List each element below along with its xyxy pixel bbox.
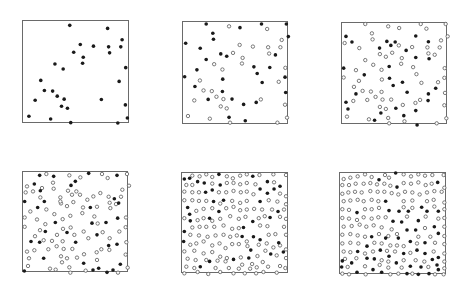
hollow-point xyxy=(278,215,281,218)
hollow-point xyxy=(433,241,436,244)
filled-point xyxy=(379,111,383,115)
hollow-point xyxy=(425,27,428,30)
hollow-point xyxy=(99,191,102,194)
filled-point xyxy=(420,205,424,209)
hollow-point xyxy=(124,225,127,228)
hollow-point xyxy=(198,79,201,82)
hollow-point xyxy=(238,43,241,46)
hollow-point xyxy=(227,266,230,269)
filled-point xyxy=(433,225,437,229)
hollow-point xyxy=(106,176,109,179)
hollow-point xyxy=(443,234,446,237)
hollow-point xyxy=(356,234,359,237)
hollow-point xyxy=(390,191,393,194)
filled-point xyxy=(42,256,46,260)
hollow-point xyxy=(262,270,265,273)
filled-point xyxy=(49,117,53,121)
hollow-point xyxy=(356,175,359,178)
hollow-point xyxy=(444,22,447,25)
hollow-point xyxy=(350,224,353,227)
filled-point xyxy=(43,89,47,93)
filled-point xyxy=(400,220,404,224)
filled-point xyxy=(431,258,435,262)
hollow-point xyxy=(341,208,344,211)
filled-point xyxy=(82,262,86,266)
hollow-point xyxy=(61,217,64,220)
hollow-point xyxy=(426,46,429,49)
filled-point xyxy=(283,75,287,79)
hollow-point xyxy=(191,226,194,229)
hollow-point xyxy=(68,174,71,177)
filled-point xyxy=(346,107,350,111)
hollow-point xyxy=(221,68,224,71)
hollow-point xyxy=(257,243,260,246)
hollow-point xyxy=(410,45,413,48)
filled-point xyxy=(100,98,104,102)
hollow-point xyxy=(228,121,231,124)
filled-point xyxy=(119,45,123,49)
hollow-point xyxy=(26,264,29,267)
filled-point xyxy=(87,172,91,176)
hollow-point xyxy=(191,183,194,186)
hollow-point xyxy=(205,258,208,261)
hollow-point xyxy=(207,272,210,275)
hollow-point xyxy=(224,246,227,249)
hollow-point xyxy=(92,195,95,198)
filled-point xyxy=(387,209,391,213)
hollow-point xyxy=(245,208,248,211)
filled-point xyxy=(249,248,253,252)
hollow-point xyxy=(239,256,242,259)
filled-point xyxy=(387,65,391,69)
hollow-point xyxy=(360,191,363,194)
hollow-point xyxy=(349,176,352,179)
filled-point xyxy=(362,73,366,77)
filled-point xyxy=(251,175,255,179)
hollow-point xyxy=(238,201,241,204)
hollow-point xyxy=(238,174,241,177)
hollow-point xyxy=(55,233,58,236)
hollow-point xyxy=(438,46,441,49)
filled-point xyxy=(397,209,401,213)
hollow-point xyxy=(183,272,186,275)
hollow-point xyxy=(59,200,62,203)
hollow-point xyxy=(66,189,69,192)
filled-point xyxy=(208,216,212,220)
filled-point xyxy=(95,233,99,237)
filled-point xyxy=(344,100,348,104)
filled-point xyxy=(97,267,101,271)
hollow-point xyxy=(384,216,387,219)
filled-point xyxy=(33,182,37,186)
hollow-point xyxy=(284,256,287,259)
filled-point xyxy=(423,252,427,256)
hollow-point xyxy=(246,244,249,247)
hollow-point xyxy=(78,193,81,196)
hollow-point xyxy=(198,225,201,228)
hollow-point xyxy=(101,230,104,233)
filled-point xyxy=(427,40,431,44)
hollow-point xyxy=(68,266,71,269)
hollow-point xyxy=(257,216,260,219)
hollow-point xyxy=(211,244,214,247)
hollow-point xyxy=(258,224,261,227)
hollow-point xyxy=(357,79,360,82)
hollow-point xyxy=(278,192,281,195)
hollow-point xyxy=(213,225,216,228)
filled-point xyxy=(282,250,286,254)
hollow-point xyxy=(212,62,215,65)
hollow-point xyxy=(370,208,373,211)
filled-point xyxy=(355,211,359,215)
filled-point xyxy=(378,46,382,50)
hollow-point xyxy=(347,208,350,211)
hollow-point xyxy=(127,184,130,187)
hollow-point xyxy=(267,199,270,202)
hollow-point xyxy=(191,174,194,177)
filled-point xyxy=(402,252,406,256)
filled-point xyxy=(427,92,431,96)
hollow-point xyxy=(375,183,378,186)
filled-point xyxy=(55,94,59,98)
hollow-point xyxy=(59,255,62,258)
scatter-plot xyxy=(23,21,128,122)
filled-point xyxy=(116,121,120,125)
filled-point xyxy=(405,272,409,276)
point-pattern-panel-2 xyxy=(182,21,288,124)
